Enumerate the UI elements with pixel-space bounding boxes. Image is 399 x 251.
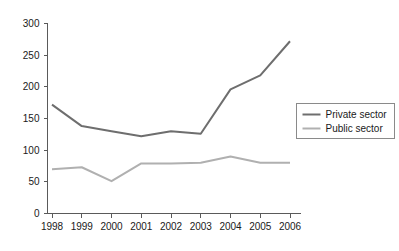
legend-label-public-sector: Public sector xyxy=(326,123,384,134)
x-tick-label: 2003 xyxy=(190,221,213,232)
x-tick-label: 2000 xyxy=(100,221,123,232)
series-line-private-sector xyxy=(52,41,290,136)
x-tick-label: 2002 xyxy=(160,221,183,232)
x-axis-tick-marks xyxy=(52,214,290,218)
y-tick-label: 100 xyxy=(23,145,40,156)
y-tick-label: 300 xyxy=(23,18,40,29)
line-chart-figure: 050100150200250300 199819992000200120022… xyxy=(0,0,399,251)
x-tick-label: 1998 xyxy=(41,221,64,232)
y-tick-label: 150 xyxy=(23,113,40,124)
x-tick-label: 2004 xyxy=(219,221,242,232)
legend-label-private-sector: Private sector xyxy=(326,109,388,120)
y-axis-tick-marks xyxy=(44,24,48,214)
chart-canvas: 050100150200250300 199819992000200120022… xyxy=(0,0,399,251)
y-tick-label: 0 xyxy=(34,208,40,219)
x-axis-tick-labels: 199819992000200120022003200420052006 xyxy=(41,221,302,232)
x-tick-label: 2006 xyxy=(279,221,302,232)
y-tick-label: 50 xyxy=(28,176,40,187)
y-axis-tick-labels: 050100150200250300 xyxy=(23,18,40,219)
y-tick-label: 200 xyxy=(23,81,40,92)
y-tick-label: 250 xyxy=(23,50,40,61)
series-line-public-sector xyxy=(52,157,290,182)
chart-legend: Private sector Public sector xyxy=(297,104,395,139)
x-tick-label: 2005 xyxy=(249,221,272,232)
x-tick-label: 1999 xyxy=(71,221,94,232)
data-series-group xyxy=(52,41,290,181)
x-tick-label: 2001 xyxy=(130,221,153,232)
